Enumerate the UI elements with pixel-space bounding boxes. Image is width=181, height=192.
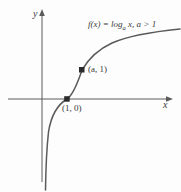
point-marker-1-0 — [64, 96, 70, 102]
y-axis-label: y — [33, 8, 37, 19]
function-equation-label: f(x) = loga x, a > 1 — [88, 19, 156, 29]
y-axis-arrowhead — [39, 9, 45, 16]
x-axis-label: x — [163, 99, 167, 110]
function-equation-prefix: f(x) = log — [88, 19, 123, 29]
function-equation-condition: , a > 1 — [132, 19, 156, 29]
point-marker-a-1 — [79, 67, 85, 73]
point-label-a-1: (a, 1) — [88, 64, 107, 74]
point-label-1-0: (1, 0) — [62, 103, 82, 113]
function-equation-base: a — [123, 24, 126, 31]
logarithmic-function-figure: y x f(x) = loga x, a > 1 (a, 1) (1, 0) — [0, 0, 181, 192]
